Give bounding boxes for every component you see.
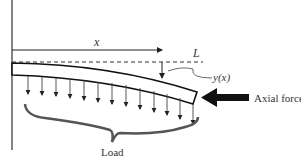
deflected-beam bbox=[12, 63, 197, 104]
beam-diagram: x L y(x) Axial force Load bbox=[0, 0, 301, 164]
load-label: Load bbox=[101, 146, 124, 158]
axial-force-label: Axial force bbox=[254, 92, 301, 104]
x-label: x bbox=[93, 35, 100, 49]
axial-force-arrow bbox=[201, 88, 249, 107]
load-brace bbox=[25, 104, 198, 142]
y-of-x-label: y(x) bbox=[212, 71, 230, 84]
L-label: L bbox=[192, 46, 200, 60]
y-leader-line bbox=[168, 68, 212, 78]
